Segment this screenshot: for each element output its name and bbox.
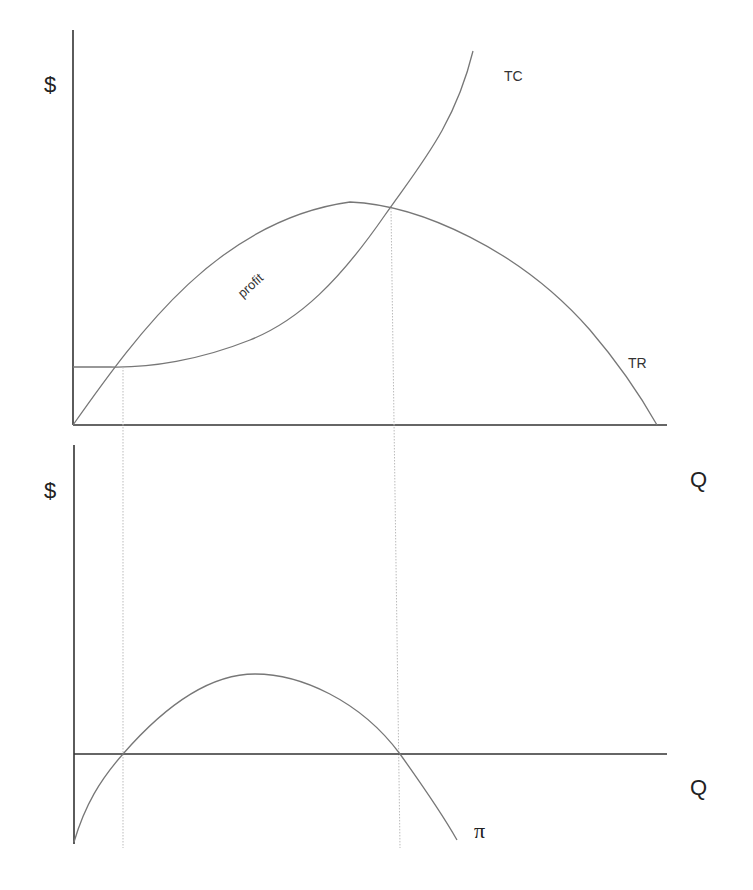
tc-curve [73, 51, 473, 367]
top-y-axis-label: $ [44, 72, 56, 98]
profit-curve-label: π [474, 818, 485, 844]
bottom-y-axis-label: $ [44, 478, 56, 504]
bottom-x-axis-label: Q [690, 775, 707, 801]
tc-label: TC [504, 68, 523, 84]
tr-label: TR [628, 355, 647, 371]
tr-curve [73, 202, 657, 425]
chart-canvas [0, 0, 753, 890]
top-x-axis-label: Q [690, 467, 707, 493]
profit-curve [74, 674, 457, 842]
